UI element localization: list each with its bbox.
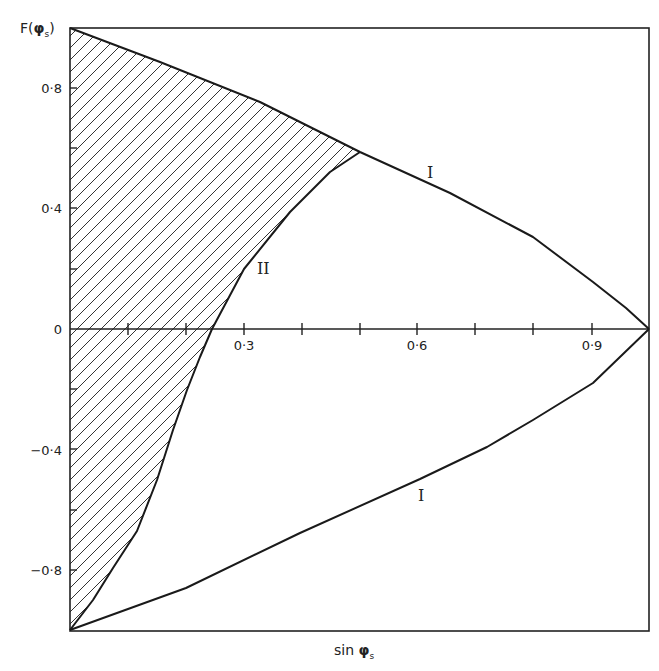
y-tick-label-neg0.4: −0·4 — [30, 443, 62, 458]
curve-I-lower-label: I — [418, 486, 424, 505]
curve-II-label: II — [257, 259, 270, 278]
curve-I-upper-label: I — [427, 163, 433, 182]
x-tick-label-0.6: 0·6 — [407, 338, 428, 353]
y-axis-title: F(φs) — [20, 20, 55, 39]
chart: 0·8 0·4 0 −0·4 −0·8 0·3 0·6 0·9 I II I F… — [0, 0, 659, 671]
y-tick-label-0: 0 — [54, 322, 62, 337]
y-tick-label-0.4: 0·4 — [41, 201, 62, 216]
x-axis-title: sin φs — [334, 642, 374, 661]
x-tick-label-0.9: 0·9 — [582, 338, 603, 353]
y-tick-label-neg0.8: −0·8 — [30, 563, 62, 578]
x-tick-label-0.3: 0·3 — [234, 338, 255, 353]
y-tick-label-0.8: 0·8 — [41, 81, 62, 96]
